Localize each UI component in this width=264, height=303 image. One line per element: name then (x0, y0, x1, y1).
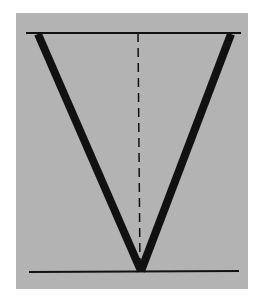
v-diagram (0, 0, 264, 303)
bottom-horizontal-line (29, 271, 239, 272)
